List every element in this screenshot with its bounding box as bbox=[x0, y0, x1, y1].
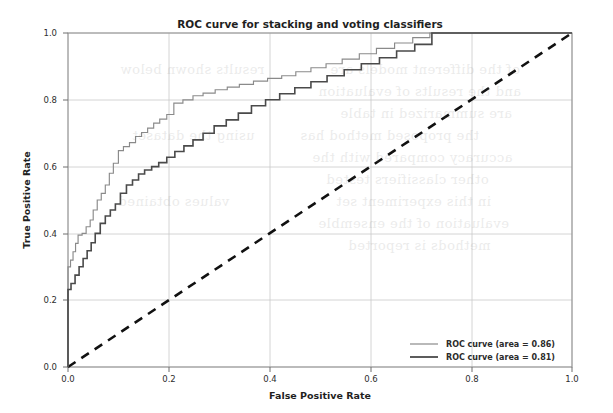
chart-title: ROC curve for stacking and voting classi… bbox=[177, 18, 443, 30]
figure-background bbox=[0, 0, 613, 413]
x-tick-label: 0.0 bbox=[61, 374, 75, 384]
x-tick-label: 1.0 bbox=[565, 374, 579, 384]
x-axis-title: False Positive Rate bbox=[269, 390, 371, 401]
roc-curve-figure: of the different models are and the resu… bbox=[0, 0, 613, 413]
y-tick-label: 0.2 bbox=[43, 295, 57, 305]
x-tick-label: 0.4 bbox=[263, 374, 277, 384]
x-tick-label: 0.6 bbox=[364, 374, 378, 384]
y-tick-label: 0.4 bbox=[43, 229, 57, 239]
y-tick-label: 1.0 bbox=[43, 28, 57, 38]
legend-label-086: ROC curve (area = 0.86) bbox=[446, 340, 555, 349]
y-tick-label: 0.8 bbox=[43, 95, 57, 105]
y-axis-title: True Positive Rate bbox=[21, 151, 32, 249]
roc-chart-svg: ROC curve for stacking and voting classi… bbox=[0, 0, 613, 413]
x-tick-label: 0.8 bbox=[465, 374, 479, 384]
legend-label-081: ROC curve (area = 0.81) bbox=[446, 353, 555, 362]
y-tick-label: 0.6 bbox=[43, 162, 57, 172]
x-tick-label: 0.2 bbox=[162, 374, 176, 384]
y-tick-label: 0.0 bbox=[43, 362, 57, 372]
